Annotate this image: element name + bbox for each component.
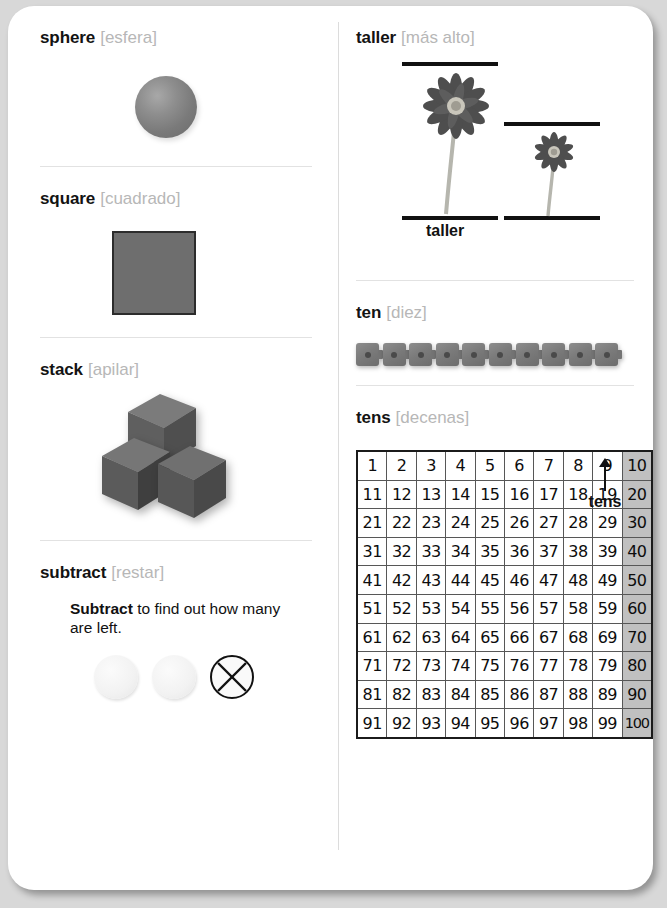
tens-pointer-label: tens xyxy=(570,493,640,511)
hundreds-chart-cell: 98 xyxy=(563,709,592,738)
figure-square xyxy=(40,209,312,337)
hundreds-chart-cell: 67 xyxy=(534,623,563,652)
hundreds-chart-cell: 90 xyxy=(622,680,652,709)
hundreds-chart-cell: 77 xyxy=(534,652,563,681)
hundreds-chart-cell: 30 xyxy=(622,509,652,538)
hundreds-chart-cell: 13 xyxy=(416,480,445,509)
term-subtract-es: [restar] xyxy=(111,563,164,582)
term-tens-en: tens xyxy=(356,408,391,427)
hundreds-chart-cell: 57 xyxy=(534,594,563,623)
tens-column-pointer: tens xyxy=(570,458,640,511)
hundreds-chart-cell: 63 xyxy=(416,623,445,652)
hundreds-chart-cell: 55 xyxy=(475,594,504,623)
hundreds-chart-cell: 96 xyxy=(504,709,533,738)
square-shape-icon xyxy=(112,231,196,315)
table-row: 41424344454647484950 xyxy=(357,566,652,595)
term-stack: stack[apilar] xyxy=(40,360,312,380)
hundreds-chart-cell: 26 xyxy=(504,509,533,538)
hundreds-chart-cell: 52 xyxy=(387,594,416,623)
hundreds-chart-cell: 16 xyxy=(504,480,533,509)
hundreds-chart-cell: 50 xyxy=(622,566,652,595)
hundreds-chart-cell: 45 xyxy=(475,566,504,595)
snap-cube xyxy=(383,343,406,366)
hundreds-chart-cell: 36 xyxy=(504,537,533,566)
hundreds-chart-cell: 1 xyxy=(357,451,387,480)
two-column-layout: sphere[esfera] square[cuadrado] xyxy=(8,6,653,890)
hundreds-chart-cell: 43 xyxy=(416,566,445,595)
hundreds-chart-cell: 27 xyxy=(534,509,563,538)
hundreds-chart-cell: 35 xyxy=(475,537,504,566)
hundreds-chart-cell: 40 xyxy=(622,537,652,566)
hundreds-chart-cell: 25 xyxy=(475,509,504,538)
hundreds-chart-cell: 64 xyxy=(446,623,475,652)
hundreds-chart-cell: 11 xyxy=(357,480,387,509)
hundreds-chart-cell: 29 xyxy=(593,509,622,538)
hundreds-chart-cell: 89 xyxy=(593,680,622,709)
hundreds-chart-cell: 70 xyxy=(622,623,652,652)
hundreds-chart-cell: 79 xyxy=(593,652,622,681)
cross-out-x-icon xyxy=(212,657,252,697)
term-stack-en: stack xyxy=(40,360,83,379)
worksheet-page-card: sphere[esfera] square[cuadrado] xyxy=(8,6,653,890)
hundreds-chart-cell: 88 xyxy=(563,680,592,709)
table-row: 81828384858687888990 xyxy=(357,680,652,709)
hundreds-chart-cell: 76 xyxy=(504,652,533,681)
hundreds-chart-cell: 5 xyxy=(475,451,504,480)
snap-cube xyxy=(462,343,485,366)
hundreds-chart-cell: 72 xyxy=(387,652,416,681)
hundreds-chart-cell: 51 xyxy=(357,594,387,623)
term-square-en: square xyxy=(40,189,95,208)
entry-taller: taller[más alto] xyxy=(356,28,635,280)
snap-cube xyxy=(409,343,432,366)
hundreds-chart-cell: 7 xyxy=(534,451,563,480)
hundreds-chart-cell: 78 xyxy=(563,652,592,681)
sphere-shape-icon xyxy=(135,76,197,138)
hundreds-chart-cell: 53 xyxy=(416,594,445,623)
term-sphere-es: [esfera] xyxy=(100,28,157,47)
term-square-es: [cuadrado] xyxy=(100,189,180,208)
term-taller-es: [más alto] xyxy=(401,28,475,47)
hundreds-chart-cell: 47 xyxy=(534,566,563,595)
term-sphere: sphere[esfera] xyxy=(40,28,312,48)
snap-cube xyxy=(542,343,565,366)
hundreds-chart-cell: 69 xyxy=(593,623,622,652)
hundreds-chart-cell: 92 xyxy=(387,709,416,738)
hundreds-chart-cell: 73 xyxy=(416,652,445,681)
hundreds-chart-cell: 91 xyxy=(357,709,387,738)
hundreds-chart-cell: 59 xyxy=(593,594,622,623)
hundreds-chart-cell: 99 xyxy=(593,709,622,738)
hundreds-chart-cell: 15 xyxy=(475,480,504,509)
hundreds-chart-cell: 84 xyxy=(446,680,475,709)
hundreds-chart-cell: 82 xyxy=(387,680,416,709)
hundreds-chart-cell: 83 xyxy=(416,680,445,709)
entry-stack: stack[apilar] xyxy=(40,338,312,540)
table-row: 919293949596979899100 xyxy=(357,709,652,738)
entry-subtract: subtract[restar] Subtract to find out ho… xyxy=(40,541,312,699)
term-ten-es: [diez] xyxy=(386,303,427,322)
table-row: 51525354555657585960 xyxy=(357,594,652,623)
hundreds-chart-cell: 61 xyxy=(357,623,387,652)
hundreds-chart-cell: 94 xyxy=(446,709,475,738)
hundreds-chart-cell: 100 xyxy=(622,709,652,738)
hundreds-chart-cell: 39 xyxy=(593,537,622,566)
hundreds-chart-cell: 93 xyxy=(416,709,445,738)
hundreds-chart-cell: 68 xyxy=(563,623,592,652)
hundreds-chart-cell: 3 xyxy=(416,451,445,480)
entry-square: square[cuadrado] xyxy=(40,167,312,337)
flower-short-icon xyxy=(526,126,582,220)
hundreds-chart-cell: 74 xyxy=(446,652,475,681)
hundreds-chart-cell: 42 xyxy=(387,566,416,595)
figure-tens: 1234567891011121314151617181920212223242… xyxy=(356,450,635,739)
figure-sphere xyxy=(40,48,312,166)
hundreds-chart-cell: 14 xyxy=(446,480,475,509)
hundreds-chart-cell: 62 xyxy=(387,623,416,652)
term-taller: taller[más alto] xyxy=(356,28,635,48)
snap-cube xyxy=(489,343,512,366)
hundreds-chart-cell: 12 xyxy=(387,480,416,509)
figure-taller: taller xyxy=(356,48,635,280)
hundreds-chart-cell: 37 xyxy=(534,537,563,566)
stacked-cubes-icon xyxy=(96,390,236,518)
snap-cube xyxy=(569,343,592,366)
hundreds-chart-cell: 32 xyxy=(387,537,416,566)
hundreds-chart-cell: 33 xyxy=(416,537,445,566)
